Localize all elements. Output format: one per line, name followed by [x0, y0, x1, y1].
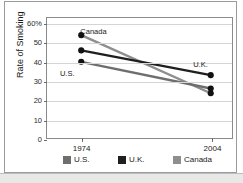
series-annotation-canada: Canada — [80, 28, 106, 36]
gridline — [47, 43, 232, 44]
data-point-marker — [208, 85, 214, 91]
legend-item[interactable]: U.S. — [63, 156, 90, 164]
y-axis-tick-label: 10 — [34, 117, 42, 125]
legend-swatch-icon — [118, 156, 126, 164]
x-axis-tick — [82, 138, 83, 142]
gridline — [47, 82, 232, 83]
y-axis-title: Rate of Smoking — [15, 11, 25, 78]
legend-swatch-icon — [63, 156, 71, 164]
legend-item[interactable]: Canada — [173, 156, 212, 164]
legend-item[interactable]: U.K. — [118, 156, 145, 164]
y-axis-tick-label: 20 — [34, 98, 42, 106]
legend-label: U.K. — [129, 156, 145, 164]
gridline — [47, 121, 232, 122]
y-axis-tick-label: 0 — [38, 136, 42, 144]
x-axis-tick-label: 1974 — [73, 144, 91, 153]
y-axis-tick-label: 40 — [34, 59, 42, 67]
y-axis-tick — [44, 140, 47, 141]
plot-area: 60%5040302010019742004U.S.U.K.Canada — [46, 17, 233, 139]
gridline — [47, 24, 232, 25]
y-axis-tick — [44, 43, 47, 44]
chart-figure: Rate of Smoking 60%5040302010019742004U.… — [0, 0, 243, 183]
x-axis-tick-label: 2004 — [204, 144, 222, 153]
y-axis-tick — [44, 121, 47, 122]
series-annotation-uk: U.K. — [193, 61, 208, 69]
y-axis-tick — [44, 82, 47, 83]
y-axis-tick — [44, 63, 47, 64]
chart-legend: U.S.U.K.Canada — [41, 153, 228, 167]
gridline — [47, 101, 232, 102]
y-axis-tick-label: 50 — [34, 39, 42, 47]
bottom-band — [0, 174, 243, 183]
legend-swatch-icon — [173, 156, 181, 164]
legend-label: Canada — [184, 156, 212, 164]
y-axis-tick — [44, 24, 47, 25]
data-point-marker — [78, 47, 84, 53]
y-axis-tick-label: 60% — [27, 20, 42, 28]
series-line-us — [81, 62, 210, 89]
y-axis-tick-label: 30 — [34, 78, 42, 86]
y-axis-tick — [44, 101, 47, 102]
series-annotation-us: U.S. — [60, 70, 75, 78]
x-axis-tick — [212, 138, 213, 142]
legend-label: U.S. — [74, 156, 90, 164]
data-point-marker — [208, 72, 214, 78]
chart-card-frame: Rate of Smoking 60%5040302010019742004U.… — [4, 1, 237, 173]
